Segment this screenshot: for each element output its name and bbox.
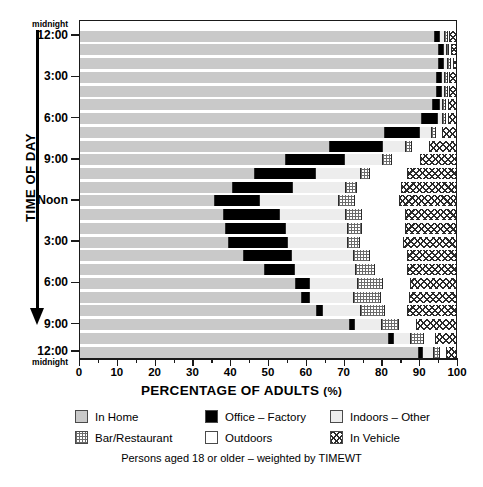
x-axis-tick xyxy=(381,358,382,366)
x-axis-tick xyxy=(192,358,193,366)
bar-segment-indoors-other xyxy=(292,182,345,193)
bar-segment-indoors-other xyxy=(422,347,432,358)
bar-segment-outdoors xyxy=(380,292,409,303)
bar-segment-indoors-other xyxy=(294,264,354,275)
bar-segment-in-home xyxy=(80,168,254,179)
legend-item-indoors-other[interactable]: Indoors – Other xyxy=(330,410,430,423)
bar-segment-indoors-other xyxy=(287,237,347,248)
bar-segment-in-vehicle xyxy=(429,141,456,152)
y-axis-tick xyxy=(71,34,79,36)
bar-segment-office xyxy=(214,195,260,206)
bar-segment-in-vehicle xyxy=(449,86,456,97)
bars-container xyxy=(80,21,456,357)
bar-segment-in-home xyxy=(80,86,436,97)
bar-segment-in-home xyxy=(80,44,438,55)
bar-segment-in-vehicle xyxy=(442,127,456,138)
bar-segment-in-vehicle xyxy=(448,113,456,124)
legend-item-office[interactable]: Office – Factory xyxy=(205,410,306,423)
bar-row xyxy=(80,195,456,206)
bar-row xyxy=(80,127,456,138)
y-axis-tick xyxy=(71,199,79,201)
x-axis-tick-label: 80 xyxy=(375,366,388,378)
bar-segment-outdoors xyxy=(369,250,407,261)
bar-segment-office xyxy=(329,141,382,152)
y-axis-tick-label: 9:00 xyxy=(44,317,68,331)
bar-segment-office xyxy=(295,278,309,289)
bar-segment-in-home xyxy=(80,209,223,220)
bar-segment-in-home xyxy=(80,319,349,330)
y-axis-tick-label: 6:00 xyxy=(44,111,68,125)
x-axis-tick xyxy=(230,358,231,366)
bar-row xyxy=(80,86,456,97)
x-axis-tick-label: 60 xyxy=(299,366,312,378)
bar-segment-in-vehicle xyxy=(403,237,456,248)
legend-note: Persons aged 18 or older – weighted by T… xyxy=(0,452,483,464)
x-axis-tick xyxy=(249,358,250,363)
bar-segment-in-home xyxy=(80,292,301,303)
legend-swatch-office xyxy=(205,410,218,423)
bar-segment-bar-restaurant xyxy=(353,292,380,303)
y-axis-midnight-caption: midnight xyxy=(32,357,68,367)
bar-segment-indoors-other xyxy=(344,154,382,165)
bar-segment-indoors-other xyxy=(419,127,431,138)
bar-row xyxy=(80,292,456,303)
x-axis-tick xyxy=(155,358,156,366)
bar-segment-bar-restaurant xyxy=(347,223,361,234)
bar-segment-in-home xyxy=(80,99,432,110)
bar-segment-outdoors xyxy=(398,319,416,330)
x-axis-tick xyxy=(419,358,420,366)
bar-segment-office xyxy=(228,237,287,248)
bar-segment-outdoors xyxy=(361,209,405,220)
bar-segment-in-vehicle xyxy=(453,58,456,69)
bar-segment-in-vehicle xyxy=(420,154,456,165)
legend-item-bar-restaurant[interactable]: Bar/Restaurant xyxy=(75,431,172,444)
x-axis-tick xyxy=(174,358,175,363)
bar-segment-in-vehicle xyxy=(435,333,456,344)
bar-segment-in-vehicle xyxy=(409,292,456,303)
bar-row xyxy=(80,168,456,179)
x-axis-tick xyxy=(79,358,80,366)
legend-swatch-bar-restaurant xyxy=(75,431,88,444)
bar-row xyxy=(80,44,456,55)
bar-segment-bar-restaurant xyxy=(353,250,369,261)
bar-segment-indoors-other xyxy=(309,292,353,303)
bar-segment-bar-restaurant xyxy=(355,264,375,275)
x-axis-tick xyxy=(211,358,212,363)
legend-item-outdoors[interactable]: Outdoors xyxy=(205,431,272,444)
bar-segment-indoors-other xyxy=(322,305,360,316)
bar-segment-in-home xyxy=(80,154,285,165)
bar-segment-in-home xyxy=(80,250,243,261)
x-axis-tick xyxy=(457,358,458,366)
x-axis-tick xyxy=(98,358,99,363)
bar-segment-outdoors xyxy=(356,182,402,193)
x-axis-tick xyxy=(400,358,401,363)
bar-segment-in-vehicle xyxy=(416,319,456,330)
bar-segment-in-vehicle xyxy=(407,305,456,316)
bar-segment-bar-restaurant xyxy=(410,333,422,344)
bar-segment-in-vehicle xyxy=(451,44,456,55)
bar-segment-office xyxy=(264,264,295,275)
y-axis-tick xyxy=(71,117,79,119)
bar-segment-in-vehicle xyxy=(399,195,456,206)
bar-segment-in-vehicle xyxy=(405,209,456,220)
y-axis-direction-arrow-head xyxy=(30,308,44,325)
x-axis-tick xyxy=(287,358,288,363)
bar-segment-in-home xyxy=(80,113,421,124)
bar-segment-bar-restaurant xyxy=(347,237,359,248)
bar-segment-outdoors xyxy=(374,264,407,275)
bar-segment-bar-restaurant xyxy=(345,209,361,220)
x-axis-tick xyxy=(438,358,439,363)
legend-item-in-home[interactable]: In Home xyxy=(75,410,138,423)
legend-item-in-vehicle[interactable]: In Vehicle xyxy=(330,431,400,444)
bar-segment-outdoors xyxy=(361,223,405,234)
legend: In HomeOffice – FactoryIndoors – OtherBa… xyxy=(0,410,483,452)
bar-segment-in-home xyxy=(80,182,232,193)
bar-row xyxy=(80,305,456,316)
bar-segment-bar-restaurant xyxy=(381,319,399,330)
x-axis-tick xyxy=(136,358,137,363)
bar-segment-in-home xyxy=(80,127,384,138)
time-of-day-stacked-bar-chart: TIME OF DAY 12:00midnight3:006:009:00Noo… xyxy=(0,0,483,487)
bar-segment-office xyxy=(223,209,280,220)
bar-row xyxy=(80,154,456,165)
x-axis-tick-label: 70 xyxy=(337,366,350,378)
